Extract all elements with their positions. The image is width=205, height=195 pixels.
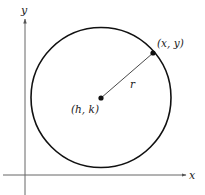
center-point [98,95,103,100]
x-axis-label: x [189,169,196,182]
center-label: (h, k) [71,103,99,115]
y-axis-label: y [20,4,28,17]
radius-line [101,53,153,98]
circle-diagram: y x (x, y) r (h, k) [0,0,205,195]
point-on-circle [150,50,155,55]
point-label: (x, y) [157,37,184,49]
radius-label: r [130,78,136,90]
